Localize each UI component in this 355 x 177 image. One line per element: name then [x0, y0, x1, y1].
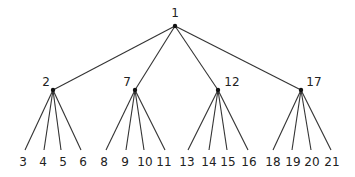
node-label-9: 9 — [121, 156, 129, 168]
node-label-16: 16 — [241, 156, 256, 168]
node-label-4: 4 — [39, 156, 47, 168]
node-label-7: 7 — [123, 76, 131, 88]
node-label-11: 11 — [156, 156, 171, 168]
node-label-12: 12 — [224, 76, 239, 88]
node-label-21: 21 — [324, 156, 339, 168]
node-label-1: 1 — [171, 7, 179, 19]
node-label-2: 2 — [42, 76, 50, 88]
node-label-8: 8 — [100, 156, 108, 168]
node-1 — [173, 24, 177, 28]
node-label-10: 10 — [137, 156, 152, 168]
node-label-15: 15 — [220, 156, 235, 168]
node-label-6: 6 — [79, 156, 87, 168]
edge-1-12 — [175, 26, 218, 90]
node-label-18: 18 — [265, 156, 280, 168]
node-label-20: 20 — [304, 156, 319, 168]
node-label-5: 5 — [59, 156, 67, 168]
tree-diagram: 127121734568910111314151618192021 — [0, 0, 355, 177]
node-7 — [133, 88, 137, 92]
node-12 — [216, 88, 220, 92]
node-2 — [51, 88, 55, 92]
node-label-3: 3 — [19, 156, 27, 168]
node-label-13: 13 — [179, 156, 194, 168]
node-label-17: 17 — [306, 76, 321, 88]
edge-1-7 — [135, 26, 175, 90]
edge-1-2 — [53, 26, 175, 90]
node-17 — [299, 88, 303, 92]
tree-edges — [0, 0, 355, 177]
node-label-19: 19 — [285, 156, 300, 168]
node-label-14: 14 — [201, 156, 216, 168]
